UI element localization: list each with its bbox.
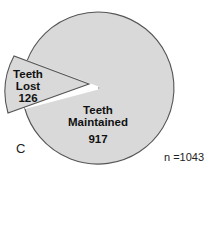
sample-size-label: n =1043 xyxy=(164,151,204,163)
label-teeth-maintained: Teeth Maintained 917 xyxy=(60,104,136,145)
label-teeth-lost: Teeth Lost 126 xyxy=(10,68,46,104)
panel-label: C xyxy=(16,141,25,156)
